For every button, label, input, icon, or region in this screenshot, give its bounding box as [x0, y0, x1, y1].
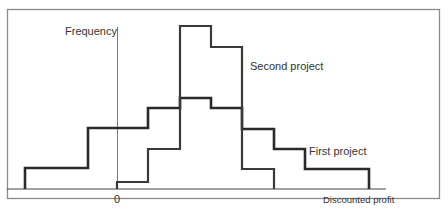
first-project-series — [25, 98, 369, 189]
first-project-label: First project — [309, 146, 366, 157]
chart-frame — [8, 10, 440, 199]
x-tick-zero: 0 — [114, 194, 120, 205]
x-axis-label: Discounted profit — [323, 195, 394, 205]
second-project-label: Second project — [250, 61, 323, 72]
y-axis-label: Frequency — [65, 26, 117, 37]
second-project-series — [117, 26, 274, 189]
